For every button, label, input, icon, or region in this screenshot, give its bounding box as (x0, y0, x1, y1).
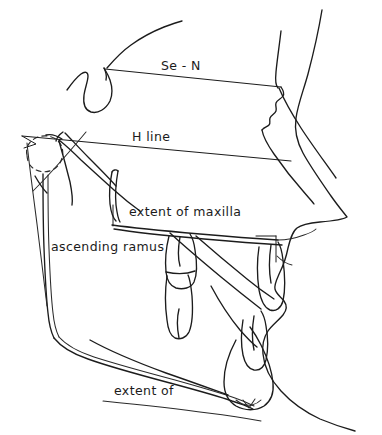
mandibular-molar-root-split-icon (178, 309, 180, 338)
sella-turcica-icon (67, 68, 112, 112)
label-extent-of: extent of (114, 385, 174, 398)
anterior-nasal-spine-icon (278, 229, 316, 240)
label-h-line: H line (132, 131, 170, 144)
maxillary-tuberosity-icon (170, 233, 261, 309)
pterygomaxillary-fissure-top-icon (112, 170, 118, 172)
mandibular-molar-icon (166, 275, 193, 339)
maxillary-incisor-icon (258, 242, 285, 311)
ascending-ramus-outer-line-icon (48, 175, 59, 337)
clinoid-process-icon (104, 68, 106, 80)
soft-tissue-profile-icon (263, 10, 355, 431)
label-ascending-ramus: ascending ramus (51, 241, 164, 254)
maxillary-incisor-root-line-icon (270, 245, 272, 283)
coronoid-sigmoid-notch-icon (59, 140, 140, 211)
mandible-lower-border-icon (54, 338, 253, 409)
pterygomaxillary-fissure-inner-icon (116, 171, 120, 222)
maxillary-molar-root-split-icon (179, 237, 181, 266)
maxillary-molar-cervical-line-icon (166, 271, 195, 273)
posterior-mandible-curve-icon (211, 286, 257, 347)
maxilla-anterior-outline-icon (262, 130, 314, 204)
label-extent-of-maxilla: extent of maxilla (129, 206, 241, 219)
cephalometric-tracing-figure: Se - N H line extent of maxilla ascendin… (0, 0, 382, 435)
submental-curve-icon (103, 401, 261, 421)
nasal-bone-icon (279, 88, 336, 178)
cranial-vault-outline-icon (276, 31, 281, 88)
label-se-n: Se - N (161, 60, 201, 73)
symphysis-inner-notch-icon (236, 400, 261, 405)
maxillary-sinus-floor-icon (196, 236, 274, 299)
frontonasal-suture-icon (262, 87, 284, 130)
h-line-left-tick-icon (22, 136, 36, 148)
